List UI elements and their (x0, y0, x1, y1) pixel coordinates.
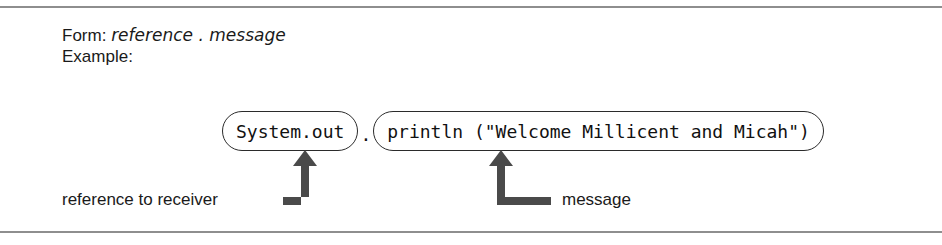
annotation-label-message: message (562, 190, 631, 210)
message-pill: println ("Welcome Millicent and Micah") (373, 111, 824, 151)
arrow-up-elbow-icon-left (275, 148, 335, 212)
form-value: reference . message (111, 25, 286, 45)
arrow-up-elbow-icon-right (489, 148, 559, 212)
example-label: Example: (62, 46, 133, 68)
form-line: Form: reference . message (62, 24, 286, 47)
dot-operator: . (358, 115, 373, 155)
horizontal-rule-bottom (0, 231, 942, 233)
horizontal-rule-top (0, 6, 942, 8)
annotation-label-reference: reference to receiver (62, 190, 218, 210)
receiver-pill: System.out (222, 111, 358, 151)
figure-container: Form: reference . message Example: Syste… (0, 0, 942, 245)
form-label: Form: (62, 26, 106, 45)
code-expression-row: System.out . println ("Welcome Millicent… (222, 110, 824, 152)
